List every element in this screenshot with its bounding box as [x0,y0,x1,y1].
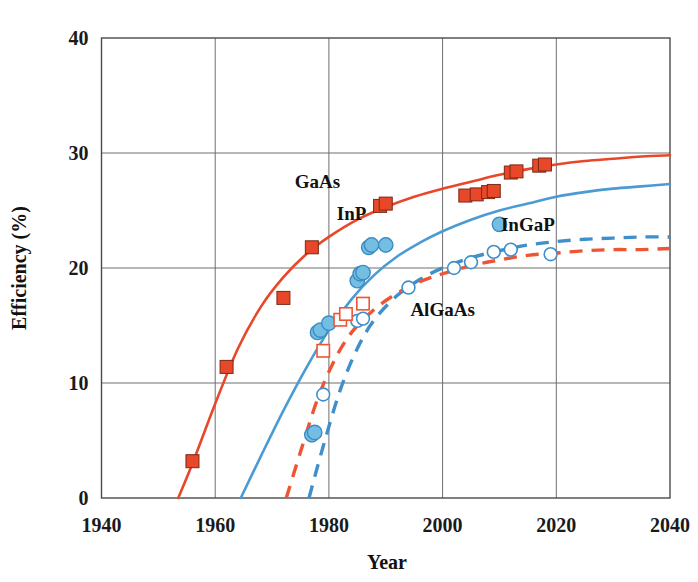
data-point-gaas [277,291,290,304]
annotation-algaas: AlGaAs [410,299,474,320]
data-point-ingap [448,262,461,275]
x-tick-label: 1940 [82,514,122,536]
data-point-gaas [487,184,500,197]
data-point-ingap [402,281,415,294]
y-tick-label: 0 [79,487,89,509]
data-point-ingap [465,256,478,269]
x-axis-tick-labels: 194019601980200020202040 [82,514,691,536]
y-axis-title: Efficiency (%) [8,206,31,330]
grid-lines [102,38,671,498]
x-tick-label: 2040 [650,514,690,536]
data-point-gaas [220,360,233,373]
x-tick-label: 1980 [309,514,349,536]
annotation-gaas: GaAs [295,171,340,192]
data-point-gaas [379,197,392,210]
annotation-ingap: InGaP [501,214,555,235]
data-point-gaas [510,165,523,178]
data-point-ingap [487,246,500,259]
x-tick-label: 2000 [423,514,463,536]
data-point-ingap [357,312,370,325]
data-point-ingap [317,388,330,401]
trend-curve-algaas [286,248,670,498]
data-point-gaas [305,241,318,254]
data-point-ingap [504,243,517,256]
chart-canvas: 194019601980200020202040 010203040 GaAsI… [0,0,698,582]
data-point-inp [356,265,370,279]
data-point-algaas [340,308,352,320]
data-point-inp [379,238,393,252]
y-axis-tick-labels: 010203040 [69,27,89,509]
efficiency-vs-year-chart: 194019601980200020202040 010203040 GaAsI… [0,0,698,582]
data-point-inp [364,238,378,252]
data-point-gaas [538,158,551,171]
x-tick-label: 2020 [536,514,576,536]
data-point-ingap [544,248,557,261]
data-point-algaas [357,297,369,309]
data-point-algaas [317,345,329,357]
data-point-gaas [186,455,199,468]
data-point-inp [307,425,321,439]
y-tick-label: 40 [69,27,89,49]
trend-curve-gaas [178,155,670,498]
y-tick-label: 20 [69,257,89,279]
annotation-inp: InP [337,203,367,224]
x-axis-title: Year [367,551,407,573]
trend-curve-inp [241,184,670,498]
trend-curves [178,155,670,498]
x-tick-label: 1960 [195,514,235,536]
y-tick-label: 10 [69,372,89,394]
y-tick-label: 30 [69,142,89,164]
